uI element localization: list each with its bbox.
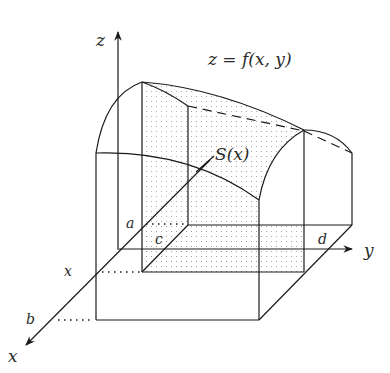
right-face-arc xyxy=(304,130,352,153)
label-d: d xyxy=(318,231,327,247)
label-c: c xyxy=(155,231,163,247)
z-axis-label: z xyxy=(95,30,106,50)
shaded-region xyxy=(142,82,304,272)
x-axis-label: x xyxy=(8,346,18,366)
solid-volume-diagram: z y x z = f(x, y) S(x) a b c d x xyxy=(0,0,390,373)
label-b: b xyxy=(26,311,35,327)
cross-section-label: S(x) xyxy=(215,144,250,164)
label-x-tick: x xyxy=(64,263,72,279)
label-a: a xyxy=(126,215,134,231)
y-axis-label: y xyxy=(363,240,374,260)
left-face-arc xyxy=(96,82,142,153)
surface-label: z = f(x, y) xyxy=(207,49,292,69)
